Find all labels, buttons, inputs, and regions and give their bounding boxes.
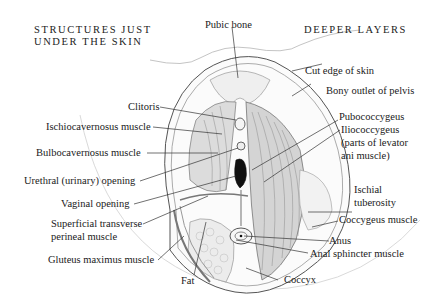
heading-structures-under-skin: STRUCTURES JUST UNDER THE SKIN (34, 24, 152, 48)
label-vaginal-opening: Vaginal opening (61, 198, 130, 210)
label-ischiocavernosus-muscle: Ischiocavernosus muscle (46, 121, 151, 133)
label-fat: Fat (181, 275, 194, 287)
label-iliococcygeus: Iliococcygeus (341, 124, 399, 136)
label-clitoris: Clitoris (128, 101, 160, 113)
label-ischial-line1: Ischial (354, 184, 382, 196)
label-levator-ani-line2: ani muscle) (341, 150, 390, 162)
label-bony-outlet-of-pelvis: Bony outlet of pelvis (326, 85, 414, 97)
label-superficial-transverse-line1: Superficial transverse (51, 218, 142, 230)
label-pubococcygeus: Pubococcygeus (339, 111, 404, 123)
label-coccygeus-muscle: Coccygeus muscle (339, 214, 417, 226)
label-levator-ani-line1: (parts of levator (341, 137, 408, 149)
label-pubic-bone: Pubic bone (205, 19, 252, 31)
label-superficial-transverse-line2: perineal muscle (51, 231, 117, 243)
perineum-anatomy-diagram: STRUCTURES JUST UNDER THE SKIN DEEPER LA… (0, 0, 444, 307)
heading-deeper-layers: DEEPER LAYERS (304, 24, 407, 36)
label-ischial-line2: tuberosity (354, 197, 396, 209)
heading-left-line1: STRUCTURES JUST (34, 24, 152, 36)
label-cut-edge-of-skin: Cut edge of skin (305, 65, 374, 77)
label-bulbocavernosus-muscle: Bulbocavernosus muscle (36, 147, 141, 159)
label-coccyx: Coccyx (284, 274, 316, 286)
heading-left-line2: UNDER THE SKIN (34, 36, 152, 48)
label-anal-sphincter-muscle: Anal sphincter muscle (310, 248, 404, 260)
label-gluteus-maximus-muscle: Gluteus maximus muscle (48, 254, 154, 266)
label-anus: Anus (329, 235, 351, 247)
label-urethral-opening: Urethral (urinary) opening (24, 175, 135, 187)
